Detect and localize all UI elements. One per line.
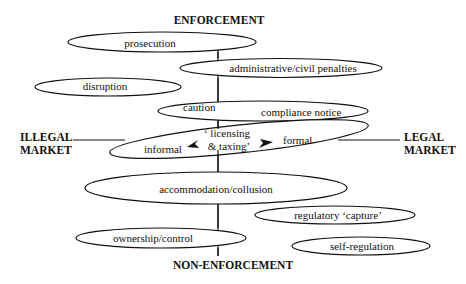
axis-label-non-enforcement: NON-ENFORCEMENT: [173, 259, 293, 271]
node-ownership-control: ownership/control: [113, 232, 193, 244]
node-accommodation-collusion: accommodation/collusion: [159, 183, 273, 195]
axis-label-illegal: ILLEGAL: [20, 131, 72, 143]
node-informal: informal: [144, 143, 182, 155]
node-administrative-penalties: administrative/civil penalties: [229, 62, 356, 74]
node-formal: formal: [283, 134, 312, 146]
axis-label-legal-market: MARKET: [404, 144, 456, 156]
node-caution: caution: [183, 101, 215, 113]
node-prosecution: prosecution: [124, 37, 175, 49]
axis-label-legal: LEGAL: [404, 131, 444, 143]
node-disruption: disruption: [83, 80, 128, 92]
node-compliance-notice: compliance notice: [261, 106, 341, 118]
node-taxing: & taxing’: [208, 140, 250, 152]
node-regulatory-capture: regulatory ‘capture’: [294, 209, 382, 221]
node-self-regulation: self-regulation: [330, 240, 394, 252]
node-licensing: ‘ licensing: [204, 127, 250, 139]
axis-label-enforcement: ENFORCEMENT: [174, 14, 265, 26]
axis-label-illegal-market: MARKET: [20, 144, 72, 156]
